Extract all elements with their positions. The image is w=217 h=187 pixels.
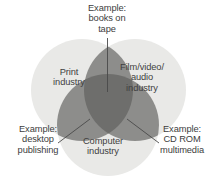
- label-intersection-print-film: Example: books on tape: [60, 3, 154, 34]
- label-set-film-video-audio: Film/video/ audio industry: [110, 62, 174, 93]
- label-set-print: Print industry: [41, 67, 97, 88]
- label-intersection-film-computer: Example: CD ROM multimedia: [148, 124, 216, 155]
- venn-diagram: Example: books on tape Print industry Fi…: [0, 0, 217, 187]
- label-intersection-print-computer: Example: desktop publishing: [3, 124, 73, 155]
- label-set-computer: Computer industry: [70, 136, 136, 157]
